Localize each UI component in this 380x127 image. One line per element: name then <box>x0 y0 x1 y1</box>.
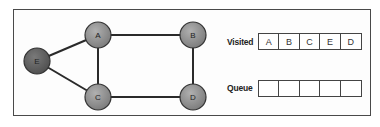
node-c: C <box>85 84 111 110</box>
queue-cell <box>259 81 279 96</box>
graph: ABCDE <box>0 0 380 127</box>
graph-edges <box>37 35 193 97</box>
node-d: D <box>180 84 206 110</box>
queue-cell <box>300 81 320 96</box>
visited-cell: E <box>320 34 340 49</box>
node-label: C <box>95 93 101 102</box>
queue-cell <box>279 81 299 96</box>
node-e: E <box>24 48 50 74</box>
node-label: B <box>190 31 195 40</box>
visited-cell: D <box>341 34 361 49</box>
queue-cell <box>320 81 340 96</box>
visited-label: Visited <box>227 37 253 47</box>
queue-array <box>258 80 362 97</box>
visited-cell: B <box>279 34 299 49</box>
node-label: D <box>190 93 196 102</box>
node-a: A <box>85 22 111 48</box>
visited-cell: A <box>259 34 279 49</box>
visited-array: ABCED <box>258 33 362 50</box>
queue-cell <box>341 81 361 96</box>
node-label: A <box>95 31 101 40</box>
node-b: B <box>180 22 206 48</box>
node-label: E <box>34 57 39 66</box>
visited-cell: C <box>300 34 320 49</box>
queue-label: Queue <box>227 83 252 93</box>
